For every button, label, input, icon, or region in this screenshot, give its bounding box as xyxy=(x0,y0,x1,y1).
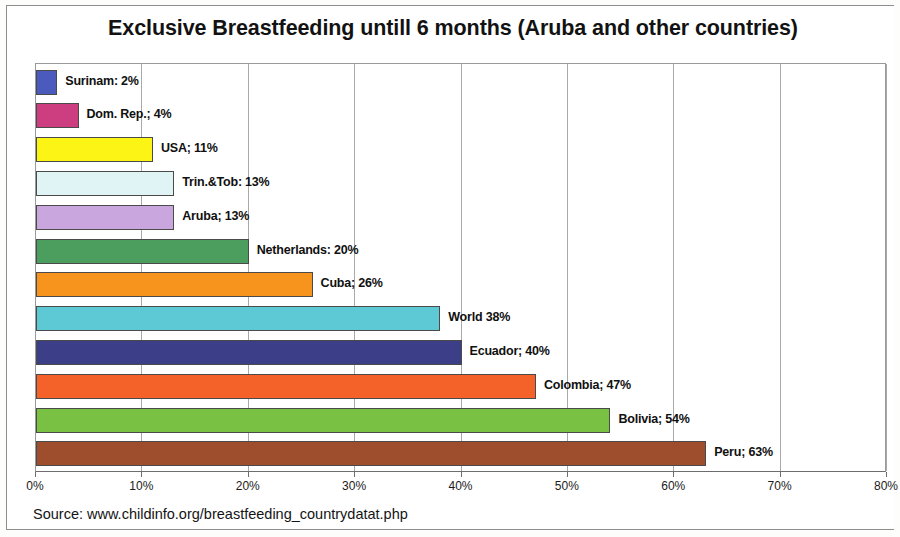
x-tick-mark xyxy=(461,472,462,477)
chart-page: Exclusive Breastfeeding untill 6 months … xyxy=(0,0,900,537)
source-note: Source: www.childinfo.org/breastfeeding_… xyxy=(33,506,408,522)
bar-row: Trin.&Tob: 13% xyxy=(36,167,887,201)
bar-aruba xyxy=(36,205,174,230)
bar-row: USA; 11% xyxy=(36,133,887,167)
plot-area: Surinam: 2%Dom. Rep.; 4%USA; 11%Trin.&To… xyxy=(35,63,886,472)
bar-usa xyxy=(36,137,153,162)
bar-data-label: Colombia; 47% xyxy=(544,378,631,392)
bar-dom-rep xyxy=(36,103,79,128)
bar-data-label: Ecuador; 40% xyxy=(470,344,550,358)
x-axis: 0%10%20%30%40%50%60%70%80% xyxy=(35,472,886,498)
bar-data-label: Aruba; 13% xyxy=(182,209,249,223)
bar-data-label: Trin.&Tob: 13% xyxy=(182,175,269,189)
bar-data-label: Peru; 63% xyxy=(714,445,773,459)
x-tick-mark xyxy=(886,472,887,477)
bar-data-label: Bolivia; 54% xyxy=(618,412,689,426)
x-tick-mark xyxy=(673,472,674,477)
bar-row: Peru; 63% xyxy=(36,437,887,471)
bar-ecuador xyxy=(36,340,462,365)
x-tick-mark xyxy=(35,472,36,477)
x-tick-mark xyxy=(354,472,355,477)
bar-row: Ecuador; 40% xyxy=(36,336,887,370)
page-title: Exclusive Breastfeeding untill 6 months … xyxy=(20,16,886,41)
bar-row: Surinam: 2% xyxy=(36,66,887,100)
bar-netherlands xyxy=(36,239,249,264)
x-tick-label: 60% xyxy=(661,479,685,493)
bar-data-label: Surinam: 2% xyxy=(65,74,139,88)
x-tick-label: 10% xyxy=(129,479,153,493)
x-tick-label: 0% xyxy=(26,479,43,493)
x-tick-label: 40% xyxy=(448,479,472,493)
bar-row: Cuba; 26% xyxy=(36,268,887,302)
bar-row: Bolivia; 54% xyxy=(36,404,887,438)
bar-data-label: USA; 11% xyxy=(161,141,218,155)
bar-trin-tob xyxy=(36,171,174,196)
bar-data-label: World 38% xyxy=(448,310,510,324)
bar-peru xyxy=(36,441,706,466)
bar-bolivia xyxy=(36,408,610,433)
bar-data-label: Dom. Rep.; 4% xyxy=(87,107,172,121)
bar-data-label: Netherlands: 20% xyxy=(257,243,359,257)
bar-surinam xyxy=(36,70,57,95)
x-tick-label: 50% xyxy=(555,479,579,493)
x-tick-label: 30% xyxy=(342,479,366,493)
bar-row: Netherlands: 20% xyxy=(36,235,887,269)
bar-data-label: Cuba; 26% xyxy=(321,276,383,290)
bar-row: Dom. Rep.; 4% xyxy=(36,99,887,133)
x-tick-mark xyxy=(567,472,568,477)
bar-colombia xyxy=(36,374,536,399)
x-tick-mark xyxy=(248,472,249,477)
bar-cuba xyxy=(36,272,313,297)
x-tick-label: 20% xyxy=(236,479,260,493)
bar-row: Colombia; 47% xyxy=(36,370,887,404)
x-tick-label: 80% xyxy=(874,479,898,493)
x-tick-mark xyxy=(780,472,781,477)
bar-row: World 38% xyxy=(36,302,887,336)
bar-row: Aruba; 13% xyxy=(36,201,887,235)
bar-world xyxy=(36,306,440,331)
x-tick-label: 70% xyxy=(768,479,792,493)
x-tick-mark xyxy=(141,472,142,477)
